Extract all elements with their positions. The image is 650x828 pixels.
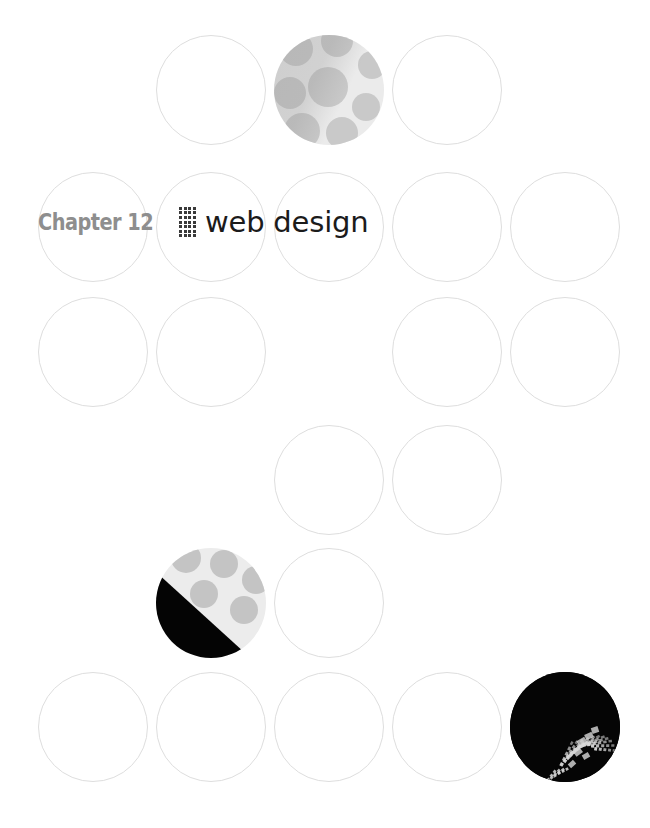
circle-r3c5	[510, 297, 620, 407]
separator-dot	[193, 211, 196, 214]
circle-r4c4	[392, 425, 502, 535]
chapter-number-label: Chapter 12	[38, 211, 153, 234]
separator-dot	[179, 225, 182, 228]
circle-r3c2	[156, 297, 266, 407]
chapter-title-line: Chapter 12 web design	[38, 203, 368, 241]
circle-r5c2	[156, 548, 266, 658]
circle-r4c3	[274, 425, 384, 535]
separator-dot	[193, 216, 196, 219]
shade-overlay	[274, 35, 384, 145]
circle-r3c4	[392, 297, 502, 407]
circle-decoration-layer	[0, 0, 650, 828]
separator-dot	[188, 221, 191, 224]
separator-dot	[193, 225, 196, 228]
page-title: web design	[205, 208, 368, 237]
separator-dot	[188, 230, 191, 233]
separator-dot	[179, 230, 182, 233]
separator-dot	[184, 211, 187, 214]
separator-dot	[179, 211, 182, 214]
polka-dot	[210, 550, 238, 578]
separator-dot	[188, 207, 191, 210]
circle-r5c3	[274, 548, 384, 658]
polka-dot	[171, 548, 201, 573]
separator-dot	[188, 211, 191, 214]
separator-dot	[188, 225, 191, 228]
separator-dot	[193, 221, 196, 224]
separator-dot	[188, 234, 191, 237]
separator-dot	[193, 230, 196, 233]
separator-dot	[184, 234, 187, 237]
polka-dot	[242, 566, 266, 594]
separator-dot	[184, 207, 187, 210]
circle-r6c1	[38, 672, 148, 782]
separator-dot	[179, 207, 182, 210]
circle-r6c4	[392, 672, 502, 782]
chapter-opener-page: Chapter 12 web design	[0, 0, 650, 828]
circle-r3c1	[38, 297, 148, 407]
separator-dot	[179, 221, 182, 224]
circle-r1c4	[392, 35, 502, 145]
circle-r2c4	[392, 172, 502, 282]
separator-dot	[179, 234, 182, 237]
circle-r2c5	[510, 172, 620, 282]
separator-dot	[184, 225, 187, 228]
circle-r6c5	[510, 672, 620, 782]
circle-r1c2	[156, 35, 266, 145]
butterfly-wing-photo	[510, 672, 620, 782]
polka-dot	[230, 596, 258, 624]
separator-dot	[193, 207, 196, 210]
separator-dot	[184, 230, 187, 233]
separator-dot	[184, 221, 187, 224]
separator-dot	[188, 216, 191, 219]
polka-dot	[190, 580, 218, 608]
separator-dot	[179, 216, 182, 219]
separator-dot	[193, 234, 196, 237]
dot-grid-separator-icon	[179, 207, 196, 238]
circle-r6c3	[274, 672, 384, 782]
circle-r6c2	[156, 672, 266, 782]
separator-dot	[184, 216, 187, 219]
circle-r1c3	[274, 35, 384, 145]
